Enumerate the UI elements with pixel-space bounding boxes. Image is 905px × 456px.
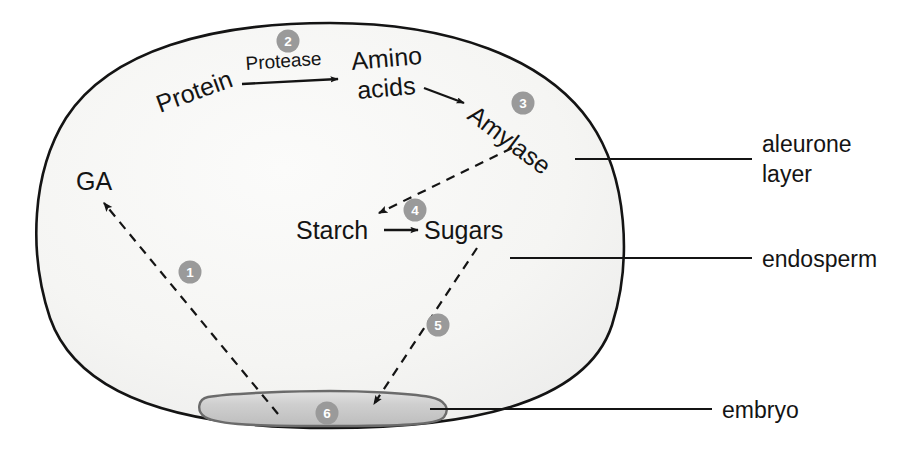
- side-labels: aleurone layer endosperm embryo: [722, 131, 877, 423]
- label-ga: GA: [76, 167, 112, 195]
- badge-5: 5: [427, 314, 450, 337]
- badge-3-number: 3: [519, 96, 527, 111]
- side-label-endosperm: endosperm: [762, 246, 877, 272]
- badge-1-number: 1: [186, 265, 194, 280]
- side-label-embryo: embryo: [722, 397, 799, 423]
- badge-3: 3: [512, 92, 535, 115]
- side-label-aleurone-line1: aleurone: [762, 131, 852, 157]
- badge-1: 1: [179, 261, 202, 284]
- badge-2-number: 2: [284, 34, 292, 49]
- badge-4: 4: [404, 199, 427, 222]
- badge-6: 6: [316, 402, 339, 425]
- label-sugars: Sugars: [424, 216, 503, 244]
- badge-2: 2: [277, 30, 300, 53]
- label-starch: Starch: [296, 216, 368, 244]
- badge-6-number: 6: [323, 406, 331, 421]
- badge-4-number: 4: [411, 203, 419, 218]
- side-label-aleurone-line2: layer: [762, 161, 812, 187]
- badge-5-number: 5: [434, 318, 442, 333]
- seed-diagram: GA Protein Protease Amino acids Amylase …: [0, 0, 905, 456]
- label-amino-acids-line2: acids: [356, 71, 417, 104]
- diagram-canvas: GA Protein Protease Amino acids Amylase …: [0, 0, 905, 456]
